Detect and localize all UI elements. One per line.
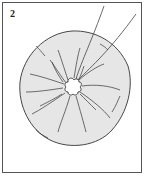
gathered-fabric-illustration — [0, 0, 145, 176]
